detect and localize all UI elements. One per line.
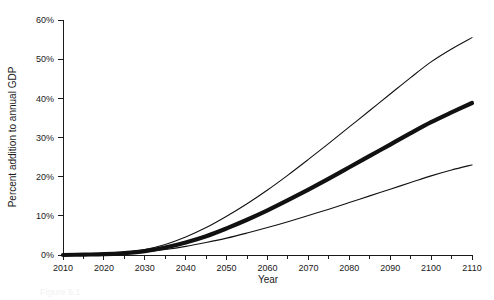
x-tick-label-2030: 2030 bbox=[135, 263, 155, 273]
x-tick-label-2070: 2070 bbox=[298, 263, 318, 273]
x-tick-label-2020: 2020 bbox=[94, 263, 114, 273]
y-tick-label-10: 10% bbox=[36, 211, 54, 221]
x-tick-label-2040: 2040 bbox=[176, 263, 196, 273]
y-tick-label-20: 20% bbox=[36, 172, 54, 182]
y-tick-label-0: 0% bbox=[41, 250, 54, 260]
x-tick-label-2060: 2060 bbox=[257, 263, 277, 273]
figure-container: 0%10%20%30%40%50%60% 2010202020302040205… bbox=[0, 0, 494, 300]
x-tick-label-2010: 2010 bbox=[53, 263, 73, 273]
y-tick-label-60: 60% bbox=[36, 15, 54, 25]
x-tick-label-2100: 2100 bbox=[421, 263, 441, 273]
x-tick-label-2050: 2050 bbox=[217, 263, 237, 273]
x-tick-label-2110: 2110 bbox=[462, 263, 481, 273]
chart-canvas: 0%10%20%30%40%50%60% 2010202020302040205… bbox=[0, 0, 494, 300]
x-tick-label-2090: 2090 bbox=[380, 263, 400, 273]
y-tick-label-30: 30% bbox=[36, 133, 54, 143]
y-tick-label-50: 50% bbox=[36, 54, 54, 64]
y-tick-label-40: 40% bbox=[36, 94, 54, 104]
y-axis-title: Percent addition to annual GDP bbox=[7, 66, 18, 207]
figure-caption: Figure 5.1 bbox=[40, 287, 81, 297]
x-tick-label-2080: 2080 bbox=[339, 263, 359, 273]
x-axis-title: Year bbox=[258, 274, 279, 285]
